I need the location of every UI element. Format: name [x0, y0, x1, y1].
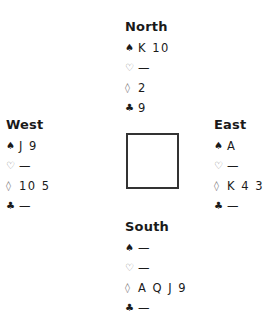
clubs-row: ♣— [125, 298, 187, 318]
north-hand: North ♠K 10 ♡— ◊2 ♣9 [125, 18, 170, 118]
clubs-cards: 9 [138, 98, 147, 118]
clubs-row: ♣— [214, 196, 264, 216]
hearts-row: ♡— [214, 156, 264, 176]
table-square [126, 133, 179, 189]
heart-icon: ♡ [125, 258, 138, 278]
clubs-cards: — [19, 196, 32, 216]
spades-row: ♠A [214, 136, 264, 156]
heart-icon: ♡ [6, 156, 19, 176]
west-hand: West ♠J 9 ♡— ◊10 5 ♣— [6, 116, 51, 216]
hand-label: West [6, 116, 51, 133]
hearts-cards: — [227, 156, 240, 176]
diamonds-cards: 2 [138, 78, 147, 98]
hearts-row: ♡— [6, 156, 51, 176]
south-hand: South ♠— ♡— ◊A Q J 9 ♣— [125, 218, 187, 318]
spades-row: ♠— [125, 238, 187, 258]
spades-cards: J 9 [19, 136, 38, 156]
clubs-row: ♣— [6, 196, 51, 216]
spade-icon: ♠ [125, 238, 138, 258]
club-icon: ♣ [125, 298, 138, 318]
diamond-icon: ◊ [125, 78, 138, 98]
diamond-icon: ◊ [125, 278, 138, 298]
diamonds-cards: A Q J 9 [138, 278, 187, 298]
hand-label: East [214, 116, 264, 133]
hearts-row: ♡— [125, 58, 170, 78]
diamonds-cards: K 4 3 [227, 176, 264, 196]
heart-icon: ♡ [125, 58, 138, 78]
hand-label: North [125, 18, 170, 35]
spade-icon: ♠ [214, 136, 227, 156]
hearts-cards: — [138, 258, 151, 278]
diamonds-row: ◊A Q J 9 [125, 278, 187, 298]
clubs-cards: — [138, 298, 151, 318]
spade-icon: ♠ [125, 38, 138, 58]
hearts-row: ♡— [125, 258, 187, 278]
spades-cards: A [227, 136, 236, 156]
clubs-cards: — [227, 196, 240, 216]
club-icon: ♣ [6, 196, 19, 216]
spades-cards: K 10 [138, 38, 170, 58]
spades-row: ♠J 9 [6, 136, 51, 156]
spades-row: ♠K 10 [125, 38, 170, 58]
spades-cards: — [138, 238, 151, 258]
diamonds-cards: 10 5 [19, 176, 51, 196]
spade-icon: ♠ [6, 136, 19, 156]
hearts-cards: — [19, 156, 32, 176]
diamonds-row: ◊2 [125, 78, 170, 98]
clubs-row: ♣9 [125, 98, 170, 118]
heart-icon: ♡ [214, 156, 227, 176]
hand-label: South [125, 218, 187, 235]
diamonds-row: ◊10 5 [6, 176, 51, 196]
diamond-icon: ◊ [6, 176, 19, 196]
diamonds-row: ◊K 4 3 [214, 176, 264, 196]
east-hand: East ♠A ♡— ◊K 4 3 ♣— [214, 116, 264, 216]
hearts-cards: — [138, 58, 151, 78]
club-icon: ♣ [214, 196, 227, 216]
club-icon: ♣ [125, 98, 138, 118]
diamond-icon: ◊ [214, 176, 227, 196]
